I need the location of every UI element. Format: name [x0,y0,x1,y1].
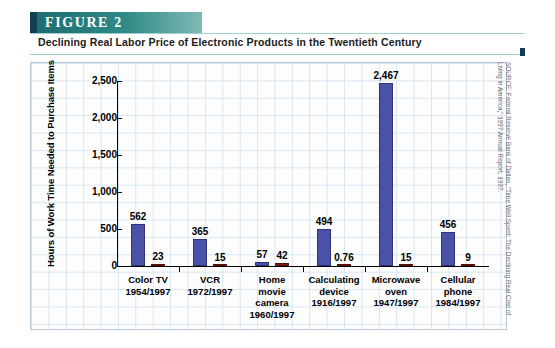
bar-series-b [461,264,475,266]
figure-subtitle: Declining Real Labor Price of Electronic… [38,36,508,48]
bars-layer: 562233651557424940.762,467154569 [117,81,489,266]
bar-value-label: 23 [136,251,180,262]
figure-header-accent-bar [30,12,37,33]
figure-rule-top [30,33,524,34]
y-axis-tick-label: 2,500 [73,75,117,86]
x-axis-group-separator [365,266,366,272]
x-axis-category-line: VCR [200,274,220,285]
x-axis-category-line: movie [258,286,285,297]
source-note: SOURCE: Federal Reserve Bank of Dallas, … [496,62,512,332]
figure-number-label: FIGURE 2 [37,15,123,31]
x-axis-group-separator [427,266,428,272]
bar-series-b [151,264,165,266]
x-axis-category-line: 1972/1997 [188,286,233,297]
bar-value-label: 42 [260,250,304,261]
x-axis-category-line: oven [385,286,407,297]
x-axis-category-line: Home [259,274,285,285]
chart-plot-frame: Hours of Work Time Needed to Purchase It… [30,62,507,330]
x-axis-category-line: camera [255,297,288,308]
x-axis-category-line: 1947/1997 [374,297,419,308]
figure-rule-bottom [30,54,524,55]
bar-value-label: 562 [116,211,160,222]
figure-container: FIGURE 2 Declining Real Labor Price of E… [0,0,555,348]
x-axis-category-line: Calculating [308,274,359,285]
bar-value-label: 365 [178,226,222,237]
y-axis-tick-label: 0 [73,260,117,271]
y-axis-tick-label: 1,500 [73,149,117,160]
x-axis-category-line: 1984/1997 [436,297,481,308]
y-axis-tick-label: 2,000 [73,112,117,123]
x-axis-category-line: 1916/1997 [312,297,357,308]
x-axis-category-label: Cellularphone1984/1997 [418,274,498,309]
x-axis-category-line: phone [444,286,473,297]
x-axis-category-line: Cellular [441,274,476,285]
bar-value-label: 494 [302,216,346,227]
bar-series-a [255,262,269,266]
y-axis-tick-label: 500 [73,223,117,234]
x-axis-category-line: 1960/1997 [250,309,295,320]
bar-series-b [399,264,413,266]
bar-series-a [379,83,393,266]
x-axis-category-line: 1954/1997 [126,286,171,297]
x-axis-category-line: device [319,286,349,297]
bar-series-b [213,264,227,266]
bar-value-label: 2,467 [364,70,408,81]
bar-value-label: 456 [426,219,470,230]
bar-value-label: 15 [384,252,428,263]
x-axis-category-line: Color TV [128,274,168,285]
bar-series-b [275,263,289,266]
x-axis-group-separator [303,266,304,272]
bar-value-label: 15 [198,252,242,263]
y-axis-title: Hours of Work Time Needed to Purchase It… [45,71,59,267]
x-axis-category-line: Microwave [372,274,421,285]
bar-series-b [337,264,351,266]
figure-header-banner: FIGURE 2 [30,12,202,33]
figure-endcap-marker [520,48,525,56]
bar-value-label: 0.76 [322,252,366,263]
chart-plot-area: Hours of Work Time Needed to Purchase It… [31,63,506,329]
y-axis-tick-label: 1,000 [73,186,117,197]
x-axis-group-separator [179,266,180,272]
x-axis-group-separator [241,266,242,272]
bar-value-label: 9 [446,252,490,263]
